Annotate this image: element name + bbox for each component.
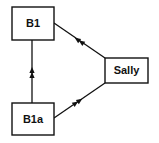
double-arrowhead-icon <box>29 67 34 78</box>
node-b1a: B1a <box>12 103 54 135</box>
node-sally: Sally <box>105 58 148 83</box>
node-label: Sally <box>114 64 141 76</box>
node-label: B1 <box>26 17 40 29</box>
edge-sally-to-b1 <box>54 23 105 58</box>
edge-b1a-to-sally <box>54 83 105 118</box>
edge-b1a-to-b1 <box>29 40 34 103</box>
node-label: B1a <box>23 113 44 125</box>
diagram-canvas: B1 Sally B1a <box>0 0 159 143</box>
node-b1: B1 <box>12 7 54 40</box>
